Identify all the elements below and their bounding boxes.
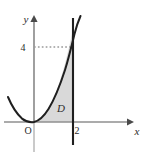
math-figure: 4 2 O x y D [0,0,150,159]
region-label-d: D [56,102,65,114]
x-tick-label-2: 2 [75,125,80,136]
shaded-region-d [34,29,73,122]
y-tick-label-4: 4 [21,42,26,53]
x-axis-arrowhead [127,118,134,125]
plot-canvas: 4 2 O x y D [0,0,150,159]
origin-label: O [24,125,31,136]
y-axis-arrowhead [30,15,37,22]
y-axis-label: y [23,13,29,25]
x-axis-label: x [134,125,140,137]
